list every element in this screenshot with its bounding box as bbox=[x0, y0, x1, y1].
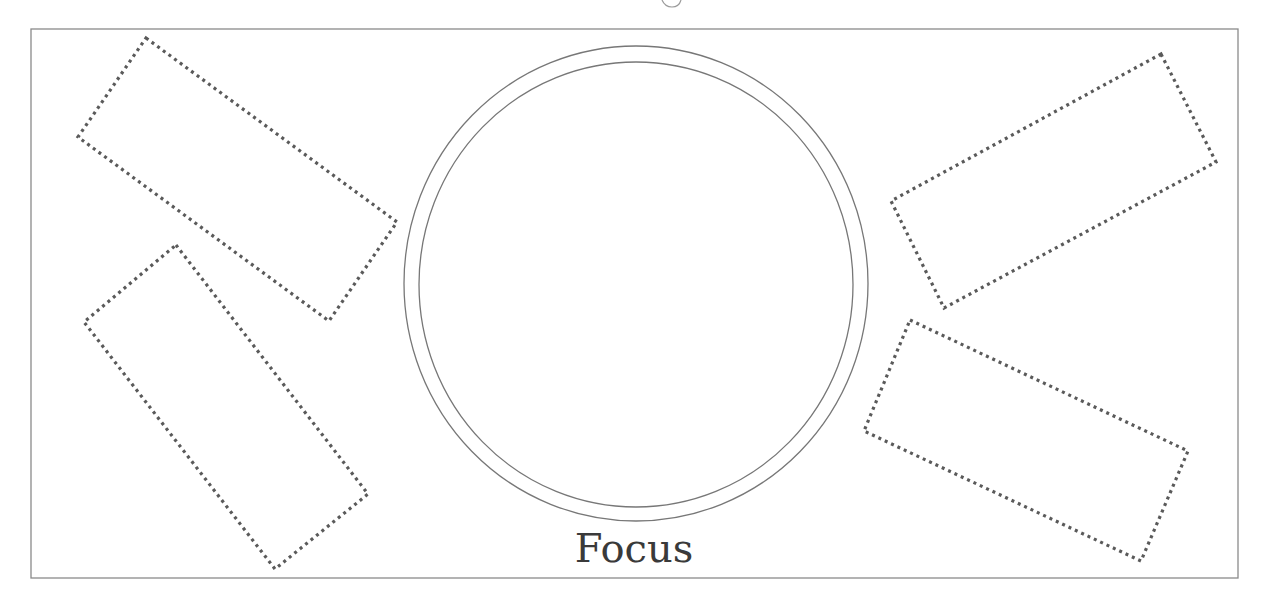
outer-ring bbox=[404, 46, 868, 521]
cropped-title-glyph bbox=[662, 0, 681, 7]
dotted-box-upper-right bbox=[891, 54, 1216, 308]
focus-label: Focus bbox=[575, 525, 693, 571]
dotted-box-upper-left bbox=[78, 38, 397, 321]
dotted-box-lower-right bbox=[864, 320, 1188, 561]
dotted-box-lower-left bbox=[84, 245, 368, 569]
focus-diagram: Focus bbox=[0, 0, 1266, 609]
inner-ring bbox=[419, 62, 853, 507]
